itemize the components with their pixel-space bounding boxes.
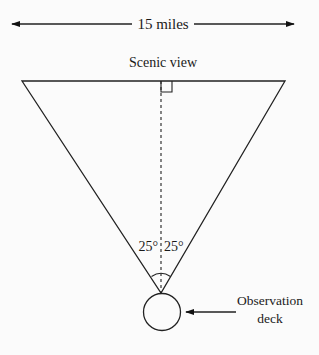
angle-right-label: 25° <box>164 239 184 254</box>
right-angle-marker <box>161 81 172 92</box>
deck-label-line2: deck <box>257 311 283 326</box>
angle-left-label: 25° <box>138 239 158 254</box>
scenic-view-label: Scenic view <box>129 55 198 70</box>
scenic-view-diagram: 15 miles Scenic view 25° 25° Observation… <box>0 0 319 355</box>
deck-label-line1: Observation <box>237 293 303 308</box>
width-label: 15 miles <box>137 16 188 32</box>
observation-deck-circle <box>144 294 181 331</box>
view-triangle <box>22 81 285 293</box>
